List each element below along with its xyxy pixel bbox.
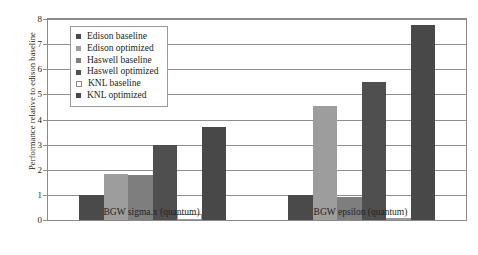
bar xyxy=(386,218,411,220)
y-axis-tick xyxy=(43,69,48,70)
y-axis-tick xyxy=(43,120,48,121)
legend: Edison baselineEdison optimizedHaswell b… xyxy=(70,26,168,107)
legend-item-label: Edison optimized xyxy=(87,43,154,55)
gridline xyxy=(48,145,466,146)
y-axis-tick xyxy=(43,170,48,171)
y-axis-tick xyxy=(43,195,48,196)
legend-item: Haswell optimized xyxy=(76,66,159,78)
y-axis-tick xyxy=(43,94,48,95)
legend-item: Edison baseline xyxy=(76,31,159,43)
y-axis-tick-label: 5 xyxy=(38,90,43,99)
y-axis-tick xyxy=(43,19,48,20)
y-axis-tick-label: 8 xyxy=(38,15,43,24)
legend-item: Haswell baseline xyxy=(76,55,159,67)
legend-swatch-icon xyxy=(76,58,81,63)
y-axis-label: Performance relative to edison baseline xyxy=(27,6,37,196)
bar xyxy=(411,25,436,220)
legend-item: KNL baseline xyxy=(76,78,159,90)
bar xyxy=(202,127,227,220)
legend-swatch-icon xyxy=(76,70,81,75)
x-axis-category-label: BGW sigma.x (quantum) xyxy=(103,207,199,217)
y-axis-tick-label: 4 xyxy=(38,115,43,124)
y-axis-tick-label: 7 xyxy=(38,40,43,49)
legend-item-label: Haswell baseline xyxy=(87,55,152,67)
legend-item-label: Haswell optimized xyxy=(87,66,159,78)
bar xyxy=(362,82,387,220)
legend-swatch-icon xyxy=(76,34,81,39)
legend-item: Edison optimized xyxy=(76,43,159,55)
legend-item: KNL optimized xyxy=(76,90,159,102)
y-axis-tick-label: 2 xyxy=(38,165,43,174)
y-axis-tick xyxy=(43,220,48,221)
bar xyxy=(313,106,338,220)
x-axis-category-label: BGW epsilon (quantum) xyxy=(314,207,408,217)
y-axis-tick xyxy=(43,44,48,45)
y-axis-tick-label: 0 xyxy=(38,216,43,225)
bar-chart: Performance relative to edison baseline … xyxy=(0,0,478,255)
legend-item-label: Edison baseline xyxy=(87,31,147,43)
legend-swatch-icon xyxy=(76,46,81,51)
y-axis-tick-label: 1 xyxy=(38,190,43,199)
y-axis-tick xyxy=(43,145,48,146)
legend-swatch-icon xyxy=(76,93,81,98)
legend-item-label: KNL optimized xyxy=(87,90,147,102)
gridline xyxy=(48,19,466,20)
y-axis-tick-label: 3 xyxy=(38,140,43,149)
gridline xyxy=(48,120,466,121)
bar xyxy=(288,195,313,220)
gridline xyxy=(48,170,466,171)
y-axis-tick-label: 6 xyxy=(38,65,43,74)
legend-item-label: KNL baseline xyxy=(88,78,141,90)
bar xyxy=(79,195,104,220)
legend-swatch-icon xyxy=(76,81,82,87)
